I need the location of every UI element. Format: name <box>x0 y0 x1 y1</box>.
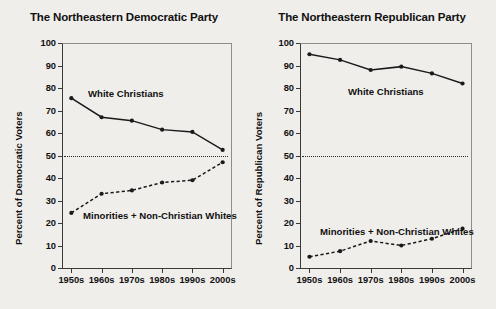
y-tick-label: 70 <box>266 106 294 116</box>
x-tick-mark <box>340 269 341 273</box>
y-tick-label: 60 <box>28 128 56 138</box>
x-tick-mark <box>71 269 72 273</box>
y-tick-label: 70 <box>28 106 56 116</box>
x-tick-label: 1970s <box>119 275 145 285</box>
y-tick-label: 90 <box>28 61 56 71</box>
y-tick-mark <box>296 156 300 157</box>
x-tick-label: 1990s <box>179 275 205 285</box>
x-tick-label: 1950s <box>58 275 84 285</box>
y-tick-mark <box>296 178 300 179</box>
y-axis-label-democratic: Percent of Democratic Voters <box>13 111 24 245</box>
y-tick-label: 20 <box>266 218 294 228</box>
x-tick-label: 1990s <box>419 275 445 285</box>
x-tick-mark <box>223 269 224 273</box>
y-tick-label: 60 <box>266 128 294 138</box>
series-annotation-white-christians-democratic: White Christians <box>88 88 164 99</box>
y-tick-label: 90 <box>266 61 294 71</box>
y-tick-mark <box>296 246 300 247</box>
y-tick-mark <box>58 178 62 179</box>
y-tick-mark <box>296 43 300 44</box>
x-tick-label: 1970s <box>358 275 384 285</box>
y-tick-label: 80 <box>28 83 56 93</box>
series-annotation-minorities-democratic: Minorities + Non-Christian Whites <box>83 210 237 221</box>
y-tick-label: 0 <box>266 263 294 273</box>
y-tick-mark <box>296 88 300 89</box>
y-tick-label: 100 <box>266 38 294 48</box>
chart-panel-republican: The Northeastern Republican Party Percen… <box>248 0 496 309</box>
y-tick-mark <box>296 201 300 202</box>
x-tick-label: 2000s <box>450 275 476 285</box>
y-tick-mark <box>58 246 62 247</box>
y-tick-label: 30 <box>266 196 294 206</box>
y-tick-mark <box>58 223 62 224</box>
chart-panel-democratic: The Northeastern Democratic Party Percen… <box>0 0 248 309</box>
y-tick-label: 30 <box>28 196 56 206</box>
x-tick-mark <box>463 269 464 273</box>
x-tick-mark <box>132 269 133 273</box>
x-tick-label: 1960s <box>327 275 353 285</box>
x-tick-mark <box>102 269 103 273</box>
y-tick-mark <box>58 111 62 112</box>
y-tick-mark <box>296 133 300 134</box>
y-tick-label: 100 <box>28 38 56 48</box>
x-tick-label: 1950s <box>297 275 323 285</box>
y-tick-mark <box>296 66 300 67</box>
reference-line-50-percent <box>302 156 468 157</box>
reference-line-50-percent <box>64 156 228 157</box>
y-tick-label: 0 <box>28 263 56 273</box>
y-tick-label: 80 <box>266 83 294 93</box>
y-tick-label: 40 <box>28 173 56 183</box>
y-axis-label-republican: Percent of Republican Voters <box>253 112 264 245</box>
y-tick-mark <box>296 223 300 224</box>
series-annotation-white-christians-republican: White Christians <box>348 86 424 97</box>
y-tick-label: 10 <box>266 241 294 251</box>
y-tick-label: 50 <box>266 151 294 161</box>
y-tick-mark <box>296 268 300 269</box>
chart-title-democratic: The Northeastern Democratic Party <box>0 11 248 23</box>
x-tick-mark <box>432 269 433 273</box>
y-tick-label: 10 <box>28 241 56 251</box>
x-tick-mark <box>192 269 193 273</box>
y-tick-mark <box>58 268 62 269</box>
y-tick-mark <box>58 43 62 44</box>
y-tick-label: 40 <box>266 173 294 183</box>
x-tick-mark <box>309 269 310 273</box>
y-tick-mark <box>58 201 62 202</box>
x-tick-label: 1960s <box>89 275 115 285</box>
x-tick-label: 1980s <box>149 275 175 285</box>
y-tick-label: 50 <box>28 151 56 161</box>
y-tick-mark <box>58 156 62 157</box>
chart-title-republican: The Northeastern Republican Party <box>248 11 496 23</box>
y-tick-label: 20 <box>28 218 56 228</box>
figure-canvas: The Northeastern Democratic Party Percen… <box>0 0 496 309</box>
y-tick-mark <box>296 111 300 112</box>
y-tick-mark <box>58 88 62 89</box>
y-tick-mark <box>58 66 62 67</box>
x-tick-label: 1980s <box>388 275 414 285</box>
x-tick-mark <box>401 269 402 273</box>
x-tick-mark <box>162 269 163 273</box>
y-tick-mark <box>58 133 62 134</box>
series-annotation-minorities-republican: Minorities + Non-Christian Whites <box>320 226 474 237</box>
x-tick-mark <box>371 269 372 273</box>
x-tick-label: 2000s <box>210 275 236 285</box>
